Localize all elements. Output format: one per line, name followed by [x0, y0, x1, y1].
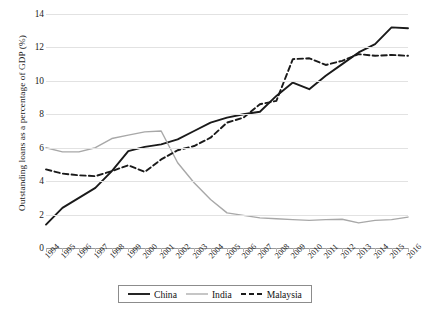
y-tick-label: 2: [22, 210, 44, 220]
y-tick-label: 10: [22, 76, 44, 86]
gridline: [46, 181, 408, 182]
y-tick-label: 4: [22, 176, 44, 186]
y-axis-ticks: 02468101214: [22, 0, 44, 315]
legend-item-malaysia: Malaysia: [241, 289, 302, 300]
y-tick-label: 0: [22, 243, 44, 253]
legend-swatch-china: [128, 290, 150, 298]
plot-area: [46, 14, 408, 248]
y-tick-label: 8: [22, 109, 44, 119]
gridline: [46, 114, 408, 115]
legend-label-malaysia: Malaysia: [267, 289, 302, 300]
gridline: [46, 14, 408, 15]
y-tick-label: 12: [22, 42, 44, 52]
series-lines: [46, 14, 408, 248]
legend-item-india: India: [186, 289, 232, 300]
y-tick-label: 14: [22, 9, 44, 19]
series-line-india: [46, 131, 408, 223]
legend-swatch-india: [186, 290, 208, 298]
gridline: [46, 81, 408, 82]
y-tick-label: 6: [22, 143, 44, 153]
legend-label-china: China: [154, 289, 177, 300]
legend-label-india: India: [212, 289, 232, 300]
gridline: [46, 215, 408, 216]
legend-item-china: China: [128, 289, 177, 300]
chart-legend: China India Malaysia: [118, 285, 312, 303]
gridline: [46, 47, 408, 48]
gridline: [46, 148, 408, 149]
legend-swatch-malaysia: [241, 290, 263, 298]
series-line-china: [46, 27, 408, 224]
